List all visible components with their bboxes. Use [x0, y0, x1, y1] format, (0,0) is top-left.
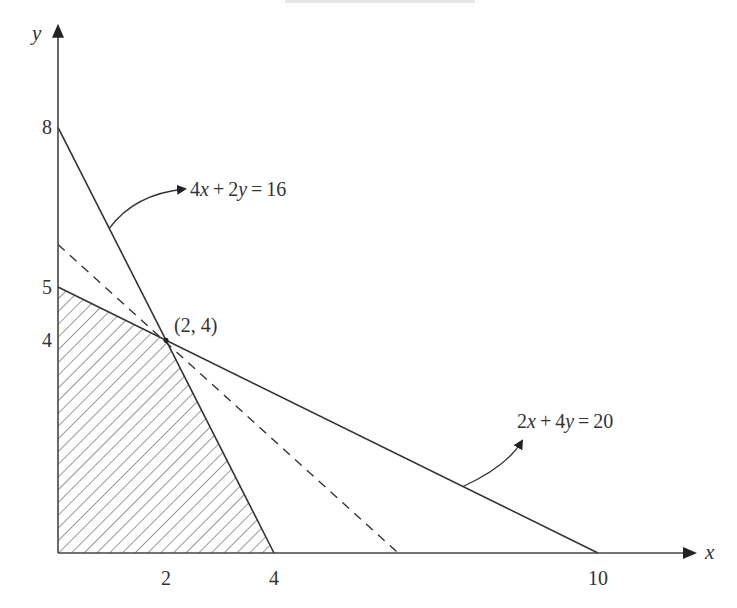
feasible-region: [58, 287, 274, 553]
y-axis-label: y: [30, 21, 42, 45]
annotation-arrow-2x4y: [463, 441, 522, 487]
annotation-arrow-4x2y: [109, 189, 185, 228]
x-tick-label: 2: [161, 567, 171, 589]
title-remnant: [285, 0, 475, 3]
y-tick-label: 5: [42, 276, 52, 298]
x-axis-label: x: [704, 540, 715, 564]
x-tick-label: 10: [588, 567, 608, 589]
optimum-point-label: (2, 4): [174, 314, 217, 337]
x-tick-label: 4: [269, 567, 279, 589]
y-tick-label: 4: [42, 329, 52, 351]
optimum-point: [164, 338, 169, 343]
equation-label-2x4y: 2x + 4y = 20: [517, 410, 613, 433]
equation-label-4x2y: 4x + 2y = 16: [190, 178, 286, 201]
feasible-region-layer: [58, 287, 274, 553]
x-axis-arrow-icon: [683, 547, 697, 559]
y-axis-arrow-icon: [52, 24, 64, 38]
y-tick-label: 8: [42, 116, 52, 138]
chart-canvas: x y 2410854 (2, 4) 4x + 2y = 16 2x + 4y …: [0, 0, 737, 608]
